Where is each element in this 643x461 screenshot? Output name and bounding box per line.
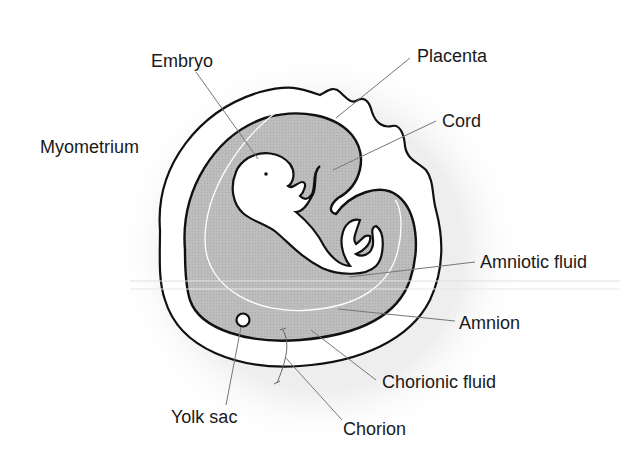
diagram-canvas [0, 0, 643, 461]
label-embryo: Embryo [151, 52, 213, 70]
label-chorionic-fluid: Chorionic fluid [382, 373, 496, 391]
label-myometrium: Myometrium [40, 138, 139, 156]
label-amniotic-fluid: Amniotic fluid [480, 253, 587, 271]
embryo-eye [264, 172, 268, 176]
label-chorion: Chorion [343, 420, 406, 438]
label-amnion: Amnion [459, 314, 520, 332]
yolk-sac-circle [237, 314, 250, 327]
label-placenta: Placenta [417, 47, 487, 65]
label-yolk-sac: Yolk sac [171, 408, 237, 426]
label-cord: Cord [442, 112, 481, 130]
gestational-sac-diagram: Embryo Placenta Cord Myometrium Amniotic… [0, 0, 643, 461]
